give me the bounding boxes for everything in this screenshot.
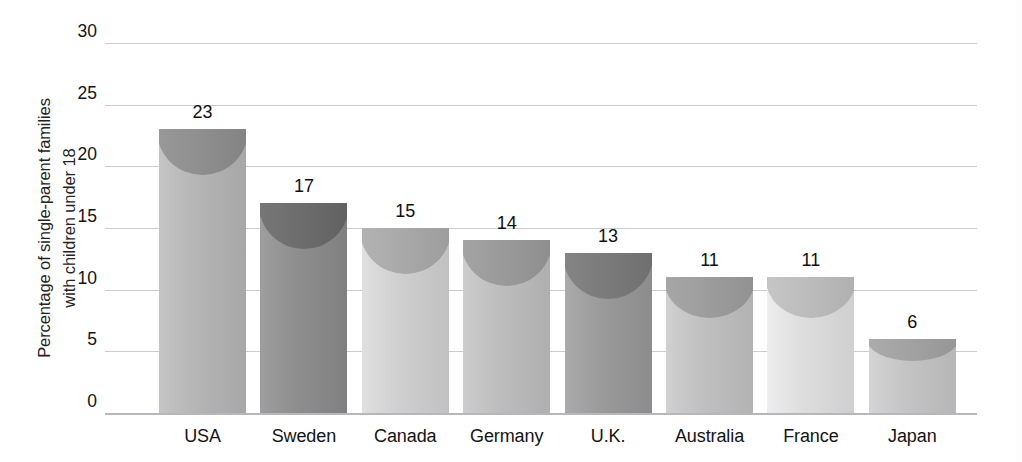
bar-u-k[interactable]	[565, 253, 652, 413]
x-label-japan: Japan	[843, 426, 982, 447]
y-tick-label-30: 30	[27, 21, 97, 42]
y-tick-label-5: 5	[27, 329, 97, 350]
bar-australia[interactable]	[666, 277, 753, 413]
value-label-sweden: 17	[240, 176, 367, 197]
bar-usa[interactable]	[159, 129, 246, 413]
value-label-france: 11	[747, 250, 874, 271]
bar-chart: Percentage of single-parent families wit…	[0, 0, 1022, 462]
gridline-30	[105, 43, 977, 44]
y-tick-label-0: 0	[27, 391, 97, 412]
bar-canada[interactable]	[362, 228, 449, 413]
gridline-0	[105, 413, 977, 415]
y-tick-label-15: 15	[27, 206, 97, 227]
value-label-usa: 23	[139, 102, 266, 123]
page-edge	[1016, 0, 1022, 462]
bar-japan[interactable]	[869, 339, 956, 413]
y-tick-label-25: 25	[27, 83, 97, 104]
value-label-u-k: 13	[545, 226, 672, 247]
y-tick-label-20: 20	[27, 144, 97, 165]
bar-france[interactable]	[767, 277, 854, 413]
value-label-japan: 6	[849, 312, 976, 333]
bar-sweden[interactable]	[260, 203, 347, 413]
bar-germany[interactable]	[463, 240, 550, 413]
y-tick-label-10: 10	[27, 268, 97, 289]
